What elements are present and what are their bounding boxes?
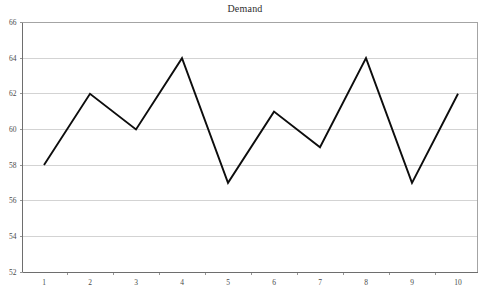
demand-line-chart: Demand 5254565860626466 12345678910	[0, 0, 490, 299]
y-axis-tick-label: 66	[9, 18, 17, 27]
x-axis-tick-label: 1	[42, 278, 46, 287]
x-axis-tick-label: 5	[226, 278, 230, 287]
x-axis-tick-label: 7	[318, 278, 322, 287]
y-axis-tick-label: 54	[9, 232, 17, 241]
y-axis-tick-labels: 5254565860626466	[9, 18, 17, 277]
gridlines	[20, 23, 478, 273]
demand-series-line	[44, 58, 458, 183]
x-axis-tick-label: 10	[454, 278, 462, 287]
y-axis-tick-label: 60	[9, 125, 17, 134]
chart-plot-svg: 5254565860626466 12345678910	[0, 0, 490, 299]
y-axis-tick-label: 52	[9, 268, 17, 277]
x-axis-tick-label: 2	[88, 278, 92, 287]
x-axis-tick-label: 9	[410, 278, 414, 287]
y-axis-tick-label: 56	[9, 196, 17, 205]
x-axis-tick-label: 6	[272, 278, 276, 287]
x-axis-tick-label: 3	[134, 278, 138, 287]
x-axis-tick-label: 8	[364, 278, 368, 287]
y-axis-tick-label: 62	[9, 89, 17, 98]
y-axis-tick-label: 58	[9, 161, 17, 170]
x-axis-tick-labels: 12345678910	[42, 278, 462, 287]
y-axis-tick-label: 64	[9, 54, 17, 63]
x-axis-tick-label: 4	[180, 278, 184, 287]
